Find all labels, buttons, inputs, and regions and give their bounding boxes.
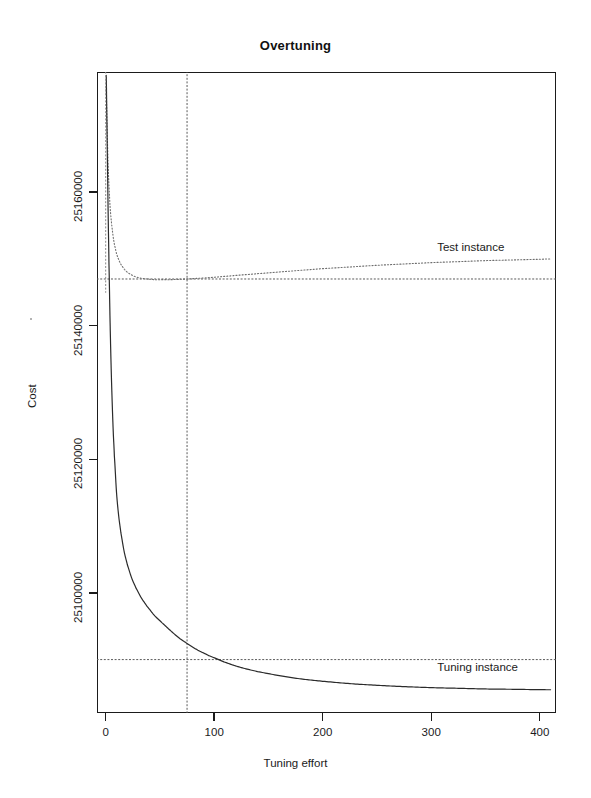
x-tick-label-400: 400 [510, 726, 570, 738]
chart-title: Overtuning [0, 38, 591, 53]
x-tick-label-100: 100 [184, 726, 244, 738]
y-tick-25140000 [89, 325, 97, 326]
chart-page: Overtuning 0100200300400 251000002512000… [0, 0, 591, 798]
series-line-tuning-instance [106, 75, 550, 689]
x-tick-300 [431, 713, 432, 721]
y-tick-label-25120000: 25120000 [72, 438, 84, 489]
x-tick-label-0: 0 [76, 726, 136, 738]
x-tick-400 [539, 713, 540, 721]
annotation-tuning-instance: Tuning instance [437, 661, 518, 673]
x-tick-0 [105, 713, 106, 721]
plot-area [97, 72, 556, 713]
x-tick-100 [213, 713, 214, 721]
x-tick-200 [322, 713, 323, 721]
x-axis-title: Tuning effort [0, 757, 591, 769]
x-tick-label-200: 200 [293, 726, 353, 738]
y-tick-25100000 [89, 592, 97, 593]
y-tick-label-25100000: 25100000 [72, 572, 84, 623]
plot-svg [97, 72, 556, 713]
y-tick-label-25140000: 25140000 [72, 305, 84, 356]
y-tick-25120000 [89, 459, 97, 460]
y-axis-title: Cost [26, 384, 38, 408]
annotation-test-instance: Test instance [437, 241, 504, 253]
x-tick-label-300: 300 [401, 726, 461, 738]
y-tick-25160000 [89, 191, 97, 192]
y-tick-label-25160000: 25160000 [72, 171, 84, 222]
scan-artifact-speck [30, 318, 32, 320]
